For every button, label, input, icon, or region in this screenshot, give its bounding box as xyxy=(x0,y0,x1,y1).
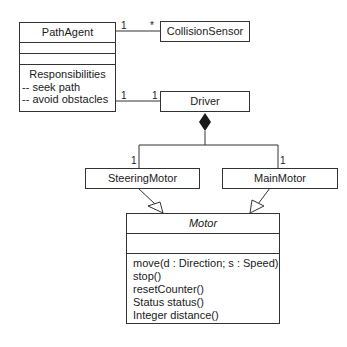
multiplicity-pathagent-collision: 1 xyxy=(121,21,127,31)
responsibility-item: -- avoid obstacles xyxy=(22,93,113,106)
generalization-steeringmotor-motor xyxy=(138,188,155,204)
class-name: CollisionSensor xyxy=(167,25,243,37)
class-motor[interactable]: Motor move(d : Direction; s : Speed) sto… xyxy=(126,213,280,324)
operation-item: Status status() xyxy=(133,296,279,309)
class-name: MainMotor xyxy=(254,172,306,184)
class-pathagent[interactable]: PathAgent Responsibilities -- seek path … xyxy=(19,22,116,112)
class-name: Driver xyxy=(190,95,219,107)
multiplicity-steeringmotor: 1 xyxy=(131,156,137,166)
responsibilities-title: Responsibilities xyxy=(22,68,113,81)
generalization-arrowhead-icon xyxy=(148,202,163,213)
generalization-arrowhead-icon xyxy=(250,200,264,213)
multiplicity-collisionsensor: * xyxy=(150,21,154,31)
multiplicity-pathagent-driver: 1 xyxy=(121,91,127,101)
responsibility-item: -- seek path xyxy=(22,81,113,94)
attributes-compartment xyxy=(127,234,279,254)
composition-diamond-icon xyxy=(199,113,211,131)
class-name: PathAgent xyxy=(20,23,115,43)
class-name: SteeringMotor xyxy=(108,172,177,184)
class-steeringmotor[interactable]: SteeringMotor xyxy=(85,168,200,189)
operation-item: resetCounter() xyxy=(133,283,279,296)
generalization-mainmotor-motor xyxy=(258,188,270,204)
operation-item: Integer distance() xyxy=(133,309,279,322)
operation-item: move(d : Direction; s : Speed) xyxy=(133,257,279,270)
class-mainmotor[interactable]: MainMotor xyxy=(222,168,338,189)
multiplicity-mainmotor: 1 xyxy=(280,156,286,166)
operations-compartment xyxy=(20,54,115,65)
attributes-compartment xyxy=(20,43,115,54)
class-collisionsensor[interactable]: CollisionSensor xyxy=(160,21,250,42)
class-driver[interactable]: Driver xyxy=(160,91,250,112)
operation-item: stop() xyxy=(133,270,279,283)
multiplicity-driver: 1 xyxy=(152,91,158,101)
responsibilities-compartment: Responsibilities -- seek path -- avoid o… xyxy=(20,65,115,108)
operations-compartment: move(d : Direction; s : Speed) stop() re… xyxy=(127,254,279,324)
composition-branch xyxy=(139,145,278,168)
class-name: Motor xyxy=(127,214,279,234)
